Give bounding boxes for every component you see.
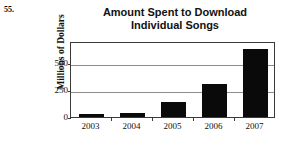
figure-container: 55. Amount Spent to Download Individual …	[0, 0, 293, 145]
bar-2005[interactable]	[161, 102, 186, 117]
chart-title-line-2: Individual Songs	[60, 19, 290, 32]
bar-slot	[71, 43, 112, 117]
x-axis-tick-labels: 20032004200520062007	[70, 121, 275, 135]
problem-number: 55.	[4, 5, 14, 14]
y-tick-label: 500	[42, 58, 68, 68]
plot-area	[70, 42, 275, 118]
x-tick-label-2005: 2005	[152, 121, 193, 131]
chart-title: Amount Spent to Download Individual Song…	[60, 6, 290, 31]
bar-slot	[235, 43, 276, 117]
bars-layer	[71, 43, 274, 117]
chart-title-line-1: Amount Spent to Download	[60, 6, 290, 19]
y-tick-label: 250	[42, 85, 68, 95]
y-axis-tick-labels: 0250500	[38, 42, 68, 118]
bar-2007[interactable]	[243, 49, 268, 117]
y-tick-label: 0	[42, 112, 68, 122]
x-tick-mark	[234, 118, 235, 121]
bar-slot	[153, 43, 194, 117]
x-tick-label-2003: 2003	[70, 121, 111, 131]
bar-slot	[112, 43, 153, 117]
x-tick-mark	[193, 118, 194, 121]
y-tick-mark	[68, 118, 71, 119]
y-tick-mark	[68, 91, 71, 92]
x-tick-label-2007: 2007	[234, 121, 275, 131]
y-tick-mark	[68, 64, 71, 65]
x-tick-mark	[111, 118, 112, 121]
x-tick-mark	[152, 118, 153, 121]
bar-2006[interactable]	[202, 84, 227, 117]
bar-2004[interactable]	[120, 113, 145, 117]
x-tick-label-2006: 2006	[193, 121, 234, 131]
bar-slot	[194, 43, 235, 117]
bar-2003[interactable]	[79, 114, 104, 117]
x-tick-label-2004: 2004	[111, 121, 152, 131]
